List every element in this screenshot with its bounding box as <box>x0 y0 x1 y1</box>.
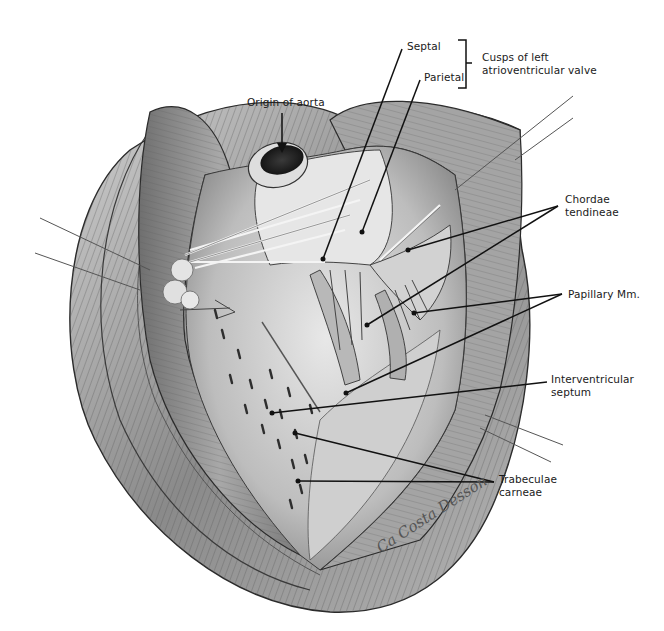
label-septal: Septal <box>407 40 441 53</box>
label-cusps-line2: atrioventricular valve <box>482 64 597 77</box>
heart-illustration <box>0 0 664 631</box>
label-interventricular-line2: septum <box>551 386 634 399</box>
label-interventricular-line1: Interventricular <box>551 373 634 386</box>
label-chordae-line1: Chordae <box>565 193 619 206</box>
label-trabeculae-line1: Trabeculae <box>499 473 557 486</box>
label-trabeculae-carneae: Trabeculae carneae <box>499 473 557 499</box>
label-interventricular-septum: Interventricular septum <box>551 373 634 399</box>
label-parietal: Parietal <box>424 71 464 84</box>
label-trabeculae-line2: carneae <box>499 486 557 499</box>
label-papillary-mm: Papillary Mm. <box>568 288 640 301</box>
label-origin-of-aorta: Origin of aorta <box>247 96 325 109</box>
label-chordae-line2: tendineae <box>565 206 619 219</box>
label-cusps-line1: Cusps of left <box>482 51 597 64</box>
label-cusps: Cusps of left atrioventricular valve <box>482 51 597 77</box>
label-chordae-tendineae: Chordae tendineae <box>565 193 619 219</box>
